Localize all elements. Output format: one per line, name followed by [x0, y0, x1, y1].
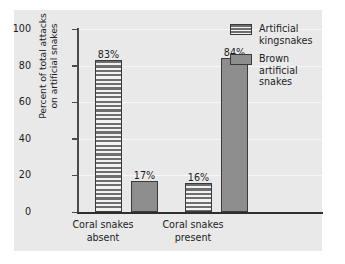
bar-brown-absent[interactable] — [131, 181, 158, 212]
y-axis-title: Percent of total attacks on artificial s… — [32, 0, 64, 146]
legend-label-brown-line2: artificial — [259, 65, 298, 77]
y-tick-mark-0 — [72, 212, 77, 213]
chart-panel: Percent of total attacks on artificial s… — [14, 10, 322, 251]
x-axis-label-coral-present-line2: present — [138, 232, 248, 245]
legend-item-artificial-kingsnakes[interactable]: Artificial kingsnakes — [230, 23, 328, 46]
y-tick-mark-100 — [72, 29, 77, 30]
legend: Artificial kingsnakes Brown artificial s… — [230, 23, 328, 95]
bar-value-kingsnakes-absent: 83% — [84, 49, 133, 60]
y-tick-mark-20 — [72, 175, 77, 176]
legend-label-brown-line3: snakes — [259, 76, 298, 88]
y-tick-label-80: 80 — [1, 61, 31, 71]
bar-kingsnakes-present[interactable] — [185, 183, 212, 212]
legend-label-artificial-kingsnakes: Artificial kingsnakes — [259, 23, 312, 46]
y-tick-label-100: 100 — [1, 24, 31, 34]
x-axis-label-coral-present: Coral snakes present — [138, 219, 248, 244]
bar-value-brown-absent: 17% — [120, 170, 169, 181]
legend-swatch-solid-icon — [230, 54, 252, 65]
x-axis-label-coral-present-line1: Coral snakes — [138, 219, 248, 232]
legend-swatch-striped-icon — [230, 24, 252, 35]
legend-label-kingsnakes-line2: kingsnakes — [259, 35, 312, 47]
y-tick-mark-60 — [72, 102, 77, 103]
legend-label-brown-line1: Brown — [259, 53, 298, 65]
x-axis-line — [77, 212, 323, 214]
y-axis-title-line2: on artificial snakes — [48, 23, 59, 108]
y-tick-label-40: 40 — [1, 134, 31, 144]
bar-value-kingsnakes-present: 16% — [174, 172, 223, 183]
y-tick-mark-80 — [72, 65, 77, 66]
y-tick-label-20: 20 — [1, 170, 31, 180]
figure-container: Percent of total attacks on artificial s… — [0, 0, 345, 264]
y-tick-mark-40 — [72, 138, 77, 139]
y-axis-line — [77, 28, 79, 213]
legend-label-kingsnakes-line1: Artificial — [259, 23, 312, 35]
y-tick-label-0: 0 — [1, 207, 31, 217]
y-tick-label-60: 60 — [1, 97, 31, 107]
legend-item-brown-artificial-snakes[interactable]: Brown artificial snakes — [230, 53, 328, 88]
bar-kingsnakes-absent[interactable] — [95, 60, 122, 212]
y-axis-title-line1: Percent of total attacks — [37, 13, 48, 119]
legend-label-brown-artificial-snakes: Brown artificial snakes — [259, 53, 298, 88]
